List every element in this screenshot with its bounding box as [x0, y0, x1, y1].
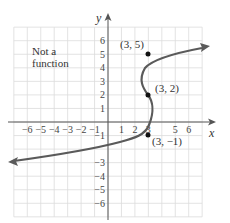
y-tick-label: −4 — [94, 171, 105, 182]
x-tick-label: −2 — [76, 124, 87, 135]
annotation-line-1: Not a — [32, 45, 56, 57]
x-tick-label: −3 — [62, 124, 73, 135]
x-tick-label: 5 — [173, 124, 178, 135]
y-tick-label: 4 — [100, 62, 105, 73]
point-label-3-5: (3, 5) — [120, 38, 144, 51]
x-tick-label: −5 — [35, 124, 46, 135]
graph: y x −6−5−4−3−2−112356654321−1−3−4−5−6 No… — [0, 0, 230, 223]
x-tick-label: −6 — [22, 124, 33, 135]
annotation: Not a function — [32, 45, 69, 69]
y-tick-label: 1 — [100, 103, 105, 114]
point-label-3-2: (3, 2) — [155, 82, 179, 95]
point-label-3-neg1: (3, −1) — [152, 135, 182, 148]
y-tick-label: 2 — [100, 89, 105, 100]
y-tick-label: 5 — [100, 49, 105, 60]
x-tick-label: −4 — [49, 124, 60, 135]
x-axis-label: x — [208, 126, 215, 140]
annotation-line-2: function — [32, 57, 69, 69]
y-tick-label: −6 — [94, 198, 105, 209]
y-tick-label: −3 — [94, 157, 105, 168]
y-axis-label: y — [95, 11, 102, 25]
point-3-neg1 — [146, 133, 151, 138]
point-3-2 — [146, 93, 151, 98]
x-tick-label: 6 — [186, 124, 191, 135]
y-tick-label: −1 — [94, 130, 105, 141]
y-tick-label: −5 — [94, 184, 105, 195]
y-tick-label: 3 — [100, 76, 105, 87]
axes: y x — [8, 11, 216, 220]
x-tick-label: 1 — [119, 124, 124, 135]
y-tick-label: 6 — [100, 35, 105, 46]
x-tick-label: 2 — [132, 124, 137, 135]
point-3-5 — [146, 52, 151, 57]
